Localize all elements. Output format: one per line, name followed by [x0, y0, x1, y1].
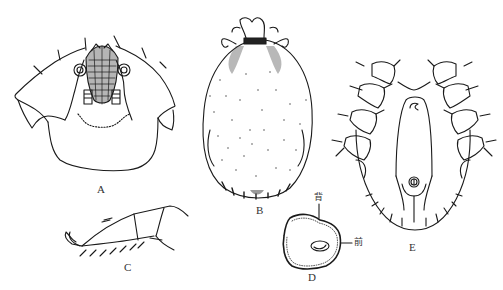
panel-label-c: C [124, 262, 131, 273]
panel-a-capitulum-drawing [15, 36, 175, 171]
panel-b-dorsal-body-drawing [203, 18, 312, 199]
panel-label-e: E [409, 242, 416, 253]
panel-label-a: A [97, 184, 105, 195]
panel-c-tarsus-drawing [65, 206, 188, 256]
panel-d-spiracular-plate-drawing [283, 204, 352, 269]
panel-label-d: D [308, 272, 316, 283]
tick-illustration-figure [0, 0, 503, 290]
panel-e-ventral-body-drawing [332, 60, 496, 230]
anterior-annotation: 前 [354, 238, 363, 247]
dorsal-annotation: 背 [314, 193, 323, 202]
panel-label-b: B [256, 205, 263, 216]
